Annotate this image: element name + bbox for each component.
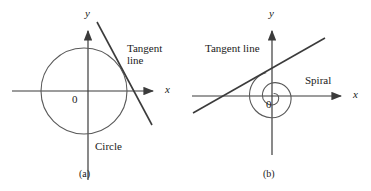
figure-container: y x 0 Tangent line Circle (a) y x 0 Tang…: [0, 0, 371, 191]
panel-a-x-axis-label: x: [165, 83, 170, 95]
figure-drawing: [0, 0, 371, 191]
panel-b-y-axis-label: y: [269, 7, 274, 19]
panel-b-origin-label: 0: [266, 98, 272, 110]
panel-a-y-axis-label: y: [85, 7, 90, 19]
panel-b-tangent-line-label: Tangent line: [205, 42, 260, 54]
panel-a-tag: (a): [79, 168, 90, 179]
panel-a-origin-label: 0: [72, 93, 78, 105]
panel-a-circle-label: Circle: [95, 140, 122, 152]
panel-a-tangent-line: [97, 22, 152, 125]
panel-b-spiral-label: Spiral: [305, 74, 331, 86]
panel-a-tangent-line-label: Tangent line: [127, 42, 162, 66]
panel-b-tag: (b): [263, 168, 275, 179]
panel-b-x-axis-label: x: [353, 88, 358, 100]
panel-b-spiral-curve: [249, 73, 291, 118]
